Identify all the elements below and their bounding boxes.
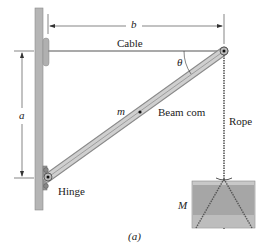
- label-theta: θ: [177, 57, 182, 68]
- label-hinge: Hinge: [58, 186, 85, 197]
- cable-bracket: [43, 38, 49, 66]
- beam-com-dot: [138, 110, 141, 113]
- label-cable: Cable: [117, 38, 143, 49]
- caption: (a): [128, 231, 141, 242]
- label-M: M: [178, 200, 187, 211]
- label-beam-com: Beam com: [158, 107, 205, 118]
- wall: [35, 8, 43, 210]
- label-rope: Rope: [229, 116, 252, 127]
- block: [192, 178, 255, 228]
- label-a: a: [19, 110, 25, 121]
- label-m: m: [117, 106, 125, 117]
- label-b: b: [131, 19, 137, 30]
